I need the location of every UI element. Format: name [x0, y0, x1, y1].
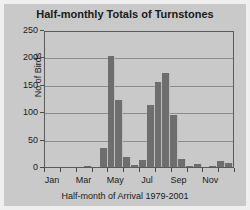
bar [170, 115, 178, 167]
bar [108, 56, 116, 167]
bar [123, 157, 131, 167]
bar [155, 82, 163, 167]
bar-slot [68, 32, 76, 167]
bar-slot [92, 32, 100, 167]
bar-slot [202, 32, 210, 167]
bar-slot [100, 32, 108, 167]
y-tick-label: 0 [12, 163, 38, 172]
x-tick-mark [107, 168, 108, 172]
bar-slot [170, 32, 178, 167]
bar-slot [217, 32, 225, 167]
bar-slot [178, 32, 186, 167]
x-tick-label: Mar [69, 175, 99, 185]
bar [131, 165, 139, 167]
x-tick-mark [155, 168, 156, 172]
bar [84, 166, 92, 167]
x-tick-mark [139, 168, 140, 172]
bar [194, 164, 202, 167]
bar-slot [162, 32, 170, 167]
bar [147, 105, 155, 167]
y-tick-label: 150 [12, 81, 38, 90]
bar-slot [53, 32, 61, 167]
bar-slot [139, 32, 147, 167]
bar-slot [131, 32, 139, 167]
bar-slot [194, 32, 202, 167]
x-tick-mark [44, 168, 45, 172]
bar-slot [155, 32, 163, 167]
x-tick-mark [60, 168, 61, 172]
y-tick-label: 250 [12, 26, 38, 35]
bar-slot [61, 32, 69, 167]
bar [100, 148, 108, 167]
x-tick-mark [171, 168, 172, 172]
bar-slot [45, 32, 53, 167]
bar [225, 163, 233, 167]
bar-slot [225, 32, 233, 167]
bar-slot [186, 32, 194, 167]
y-axis-label: No of Birds [33, 35, 43, 115]
x-tick-mark [92, 168, 93, 172]
x-tick-mark [187, 168, 188, 172]
bar-slot [108, 32, 116, 167]
x-tick-label: Sep [164, 175, 194, 185]
bar-chart: Half-monthly Totals of Turnstones No of … [0, 0, 250, 210]
y-tick-label: 50 [12, 136, 38, 145]
bar [115, 100, 123, 167]
bar-slot [76, 32, 84, 167]
x-tick-mark [234, 168, 235, 172]
x-tick-label: Jul [132, 175, 162, 185]
x-tick-mark [202, 168, 203, 172]
bar [162, 73, 170, 167]
plot-area [44, 31, 234, 168]
bar [178, 159, 186, 167]
bar-slot [123, 32, 131, 167]
x-tick-mark [218, 168, 219, 172]
x-tick-label: Nov [195, 175, 225, 185]
y-tick-label: 100 [12, 108, 38, 117]
y-tick-label: 200 [12, 53, 38, 62]
bar-slot [209, 32, 217, 167]
x-tick-mark [76, 168, 77, 172]
bar-slot [147, 32, 155, 167]
bar-slot [84, 32, 92, 167]
x-tick-label: Jan [37, 175, 67, 185]
bar [139, 160, 147, 167]
x-axis-label: Half-month of Arrival 1979-2001 [0, 191, 250, 201]
bar [186, 166, 194, 167]
bar-slot [115, 32, 123, 167]
bar [209, 166, 217, 167]
bar [217, 161, 225, 167]
x-tick-mark [123, 168, 124, 172]
bar-series [45, 32, 233, 167]
x-tick-label: May [100, 175, 130, 185]
chart-title: Half-monthly Totals of Turnstones [0, 8, 250, 20]
